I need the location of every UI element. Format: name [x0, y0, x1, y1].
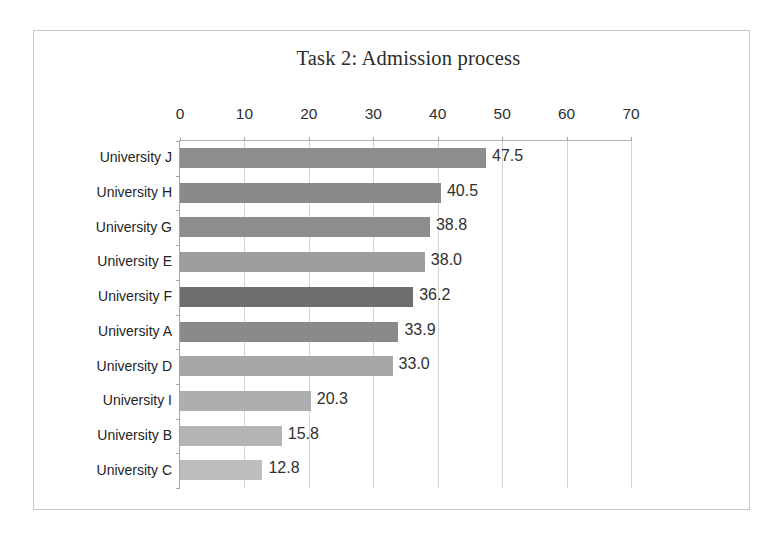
gridline-x-70 [631, 141, 632, 488]
x-tick-label-30: 30 [365, 105, 382, 123]
bar-row: 12.8 [180, 453, 631, 488]
chart-page: { "chart_data": { "type": "bar", "orient… [0, 0, 782, 535]
x-tick-label-50: 50 [494, 105, 511, 123]
y-tick-mark [176, 453, 180, 454]
bar-row: 33.9 [180, 315, 631, 350]
bar-university-e[interactable] [180, 252, 425, 272]
x-tick-mark-70 [631, 137, 632, 141]
category-label-university-c: University C [97, 462, 172, 478]
x-tick-label-0: 0 [176, 105, 185, 123]
bar-value-label: 20.3 [311, 390, 348, 408]
category-label-university-d: University D [97, 358, 172, 374]
category-label-university-a: University A [98, 323, 172, 339]
plot-area: 01020304050607047.540.538.838.036.233.93… [179, 141, 630, 488]
bar-university-a[interactable] [180, 322, 398, 342]
category-label-university-e: University E [97, 253, 172, 269]
bar-row: 20.3 [180, 384, 631, 419]
y-tick-mark [176, 245, 180, 246]
bar-value-label: 40.5 [441, 182, 478, 200]
bar-university-f[interactable] [180, 287, 413, 307]
y-tick-mark [176, 488, 180, 489]
category-label-university-j: University J [100, 149, 172, 165]
y-tick-mark [176, 384, 180, 385]
y-tick-mark [176, 349, 180, 350]
category-label-university-g: University G [96, 219, 172, 235]
y-tick-mark [176, 210, 180, 211]
chart-frame: Task 2: Admission process University JUn… [33, 30, 750, 510]
category-label-university-h: University H [97, 184, 172, 200]
bar-university-j[interactable] [180, 148, 486, 168]
x-tick-label-60: 60 [558, 105, 575, 123]
bar-university-g[interactable] [180, 217, 430, 237]
bar-row: 33.0 [180, 349, 631, 384]
category-label-university-i: University I [103, 392, 172, 408]
bar-university-h[interactable] [180, 183, 441, 203]
bar-row: 40.5 [180, 176, 631, 211]
chart-title: Task 2: Admission process [34, 47, 749, 70]
bar-row: 36.2 [180, 280, 631, 315]
category-label-university-b: University B [97, 427, 172, 443]
bar-value-label: 12.8 [262, 459, 299, 477]
bar-value-label: 38.0 [425, 251, 462, 269]
x-tick-label-10: 10 [236, 105, 253, 123]
y-tick-mark [176, 419, 180, 420]
y-tick-mark [176, 315, 180, 316]
category-label-university-f: University F [98, 288, 172, 304]
bar-value-label: 36.2 [413, 286, 450, 304]
x-tick-label-20: 20 [300, 105, 317, 123]
y-tick-mark [176, 141, 180, 142]
bar-row: 47.5 [180, 141, 631, 176]
bar-value-label: 15.8 [282, 425, 319, 443]
bar-university-b[interactable] [180, 426, 282, 446]
bar-row: 15.8 [180, 419, 631, 454]
bar-university-c[interactable] [180, 460, 262, 480]
bar-value-label: 33.0 [393, 355, 430, 373]
x-tick-label-40: 40 [429, 105, 446, 123]
bar-university-d[interactable] [180, 356, 393, 376]
bar-university-i[interactable] [180, 391, 311, 411]
bar-row: 38.8 [180, 210, 631, 245]
bar-value-label: 47.5 [486, 147, 523, 165]
y-tick-mark [176, 176, 180, 177]
bar-row: 38.0 [180, 245, 631, 280]
bar-value-label: 33.9 [398, 321, 435, 339]
bar-value-label: 38.8 [430, 216, 467, 234]
y-tick-mark [176, 280, 180, 281]
category-axis-labels: University JUniversity HUniversity GUniv… [34, 141, 172, 488]
x-tick-label-70: 70 [622, 105, 639, 123]
